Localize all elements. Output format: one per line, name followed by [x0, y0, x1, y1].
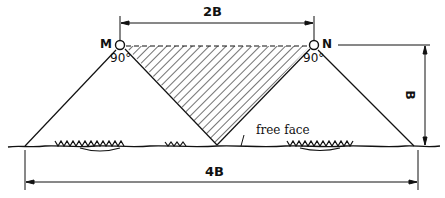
ground-line [8, 146, 440, 147]
angle-n-label: 90° [303, 51, 324, 65]
dimension-2b [120, 16, 314, 40]
dimension-b-label: B [403, 90, 417, 99]
dimension-2b-label: 2B [203, 4, 222, 19]
angle-m-label: 90° [110, 51, 131, 65]
point-n-label: N [322, 37, 332, 51]
right-leg [318, 50, 414, 146]
dimension-4b-label: 4B [205, 164, 224, 179]
point-m-circle [116, 41, 125, 50]
point-m-label: M [100, 37, 112, 51]
free-face-label: free face [256, 123, 310, 137]
free-face-arrow [241, 135, 244, 146]
left-leg [25, 50, 116, 146]
diagram-canvas: 2B M N 90° 90° B free face 4B [0, 0, 445, 198]
point-n-circle [310, 41, 319, 50]
